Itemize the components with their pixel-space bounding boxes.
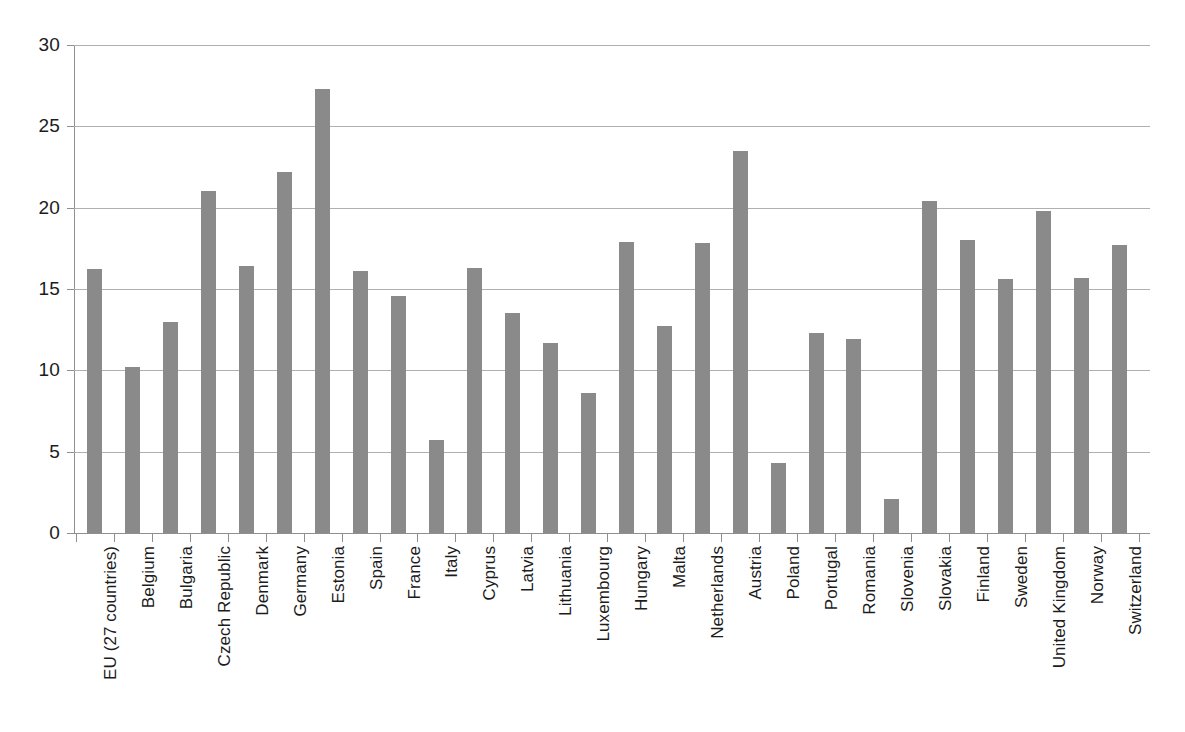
x-axis-label: Latvia	[519, 546, 536, 592]
x-tick	[531, 534, 532, 542]
x-tick	[721, 534, 722, 542]
x-tick	[1063, 534, 1064, 542]
x-tick	[1025, 534, 1026, 542]
y-tick-5	[67, 452, 74, 453]
x-axis-label: France	[406, 546, 423, 600]
x-axis-label: Lithuania	[557, 546, 574, 616]
gridline-0	[74, 533, 1150, 534]
bar	[1074, 278, 1089, 533]
x-tick	[759, 534, 760, 542]
x-axis-label: Hungary	[633, 546, 650, 611]
bar	[657, 326, 672, 533]
y-tick-25	[67, 126, 74, 127]
bar	[163, 322, 178, 533]
y-axis-label: 30	[38, 35, 60, 54]
y-axis-label: 25	[38, 116, 60, 135]
x-axis-label: Switzerland	[1127, 546, 1144, 635]
x-tick	[190, 534, 191, 542]
y-axis-label: 5	[49, 442, 60, 461]
x-axis-label: Netherlands	[709, 546, 726, 639]
x-tick	[835, 534, 836, 542]
x-axis-label: Sweden	[1013, 546, 1030, 608]
gridline-5	[74, 452, 1150, 453]
bar	[125, 367, 140, 533]
x-tick	[152, 534, 153, 542]
x-axis-label: Estonia	[330, 546, 347, 603]
bar	[353, 271, 368, 533]
bar	[1112, 245, 1127, 533]
x-axis-label: Belgium	[140, 546, 157, 608]
x-tick	[304, 534, 305, 542]
gridline-10	[74, 370, 1150, 371]
x-axis-label: Finland	[975, 546, 992, 602]
x-tick	[797, 534, 798, 542]
x-tick	[873, 534, 874, 542]
x-axis-label: Austria	[747, 546, 764, 600]
bar	[733, 151, 748, 533]
x-axis-label: Spain	[368, 546, 385, 590]
x-tick	[949, 534, 950, 542]
y-tick-20	[67, 208, 74, 209]
bar	[277, 172, 292, 533]
plot-area	[74, 45, 1150, 533]
x-tick	[493, 534, 494, 542]
x-axis-label: Czech Republic	[216, 546, 233, 666]
gridline-20	[74, 208, 1150, 209]
bar	[239, 266, 254, 533]
bar	[429, 440, 444, 533]
x-tick	[266, 534, 267, 542]
bar	[695, 243, 710, 533]
x-tick	[911, 534, 912, 542]
x-axis-label: Italy	[443, 546, 460, 578]
x-tick	[645, 534, 646, 542]
x-tick	[76, 534, 77, 542]
x-axis-label: Poland	[785, 546, 802, 600]
x-tick	[607, 534, 608, 542]
x-axis-label: Slovenia	[899, 546, 916, 612]
gridline-25	[74, 126, 1150, 127]
y-tick-0	[67, 533, 74, 534]
x-tick	[342, 534, 343, 542]
bar	[543, 343, 558, 533]
x-tick	[417, 534, 418, 542]
bar	[391, 296, 406, 533]
y-axis-label: 15	[38, 279, 60, 298]
bar	[619, 242, 634, 533]
bar	[467, 268, 482, 533]
x-tick	[455, 534, 456, 542]
x-axis-label: Norway	[1089, 546, 1106, 604]
x-axis-label: Denmark	[254, 546, 271, 616]
x-axis-label: United Kingdom	[1051, 546, 1068, 668]
bar	[809, 333, 824, 533]
x-axis-label: Malta	[671, 546, 688, 588]
y-axis-label: 0	[49, 523, 60, 542]
x-tick	[569, 534, 570, 542]
bar	[846, 339, 861, 533]
bar	[771, 463, 786, 533]
x-axis-label: Cyprus	[481, 546, 498, 600]
x-tick	[114, 534, 115, 542]
y-axis-label: 20	[38, 198, 60, 217]
x-axis-label: Luxembourg	[595, 546, 612, 642]
x-axis-label: Slovakia	[937, 546, 954, 611]
x-tick	[987, 534, 988, 542]
x-axis-label: Bulgaria	[178, 546, 195, 609]
x-tick	[380, 534, 381, 542]
y-tick-15	[67, 289, 74, 290]
bar	[581, 393, 596, 533]
x-tick	[1101, 534, 1102, 542]
gridline-30	[74, 45, 1150, 46]
x-axis-label: Romania	[861, 546, 878, 615]
x-axis-label: Portugal	[823, 546, 840, 610]
y-tick-30	[67, 45, 74, 46]
bar	[315, 89, 330, 533]
bar	[922, 201, 937, 533]
bar-chart: 051015202530EU (27 countries)BelgiumBulg…	[0, 0, 1185, 732]
x-tick	[683, 534, 684, 542]
y-tick-10	[67, 370, 74, 371]
bar	[505, 313, 520, 533]
gridline-15	[74, 289, 1150, 290]
bar	[201, 191, 216, 533]
bar	[1036, 211, 1051, 533]
bar	[884, 499, 899, 533]
